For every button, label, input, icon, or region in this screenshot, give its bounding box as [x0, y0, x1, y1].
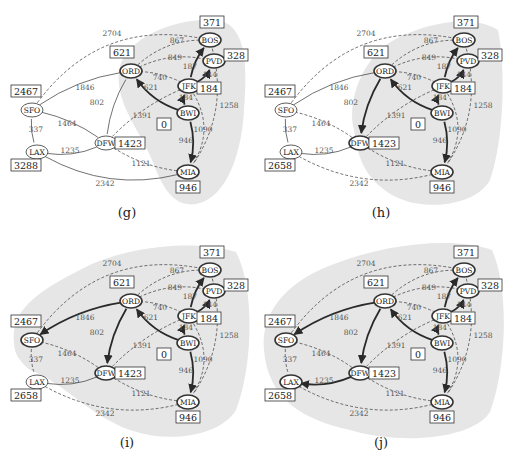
svg-text:LAX: LAX [283, 378, 299, 387]
edge-weight-label: 2704 [356, 29, 375, 38]
node-lax: LAX [26, 145, 48, 159]
svg-text:JFK: JFK [435, 312, 450, 321]
distance-box-jfk: 184 [197, 312, 221, 324]
svg-text:621: 621 [113, 47, 131, 58]
node-bwi: BWI [431, 106, 453, 120]
distance-box-jfk: 184 [197, 82, 221, 94]
distance-box-pvd: 328 [478, 49, 502, 61]
edge-weight-label: 1464 [311, 119, 330, 128]
distance-box-bos: 371 [200, 246, 224, 258]
edge-weight-label: 1235 [60, 376, 79, 385]
distance-box-jfk: 184 [451, 82, 475, 94]
distance-box-ord: 621 [110, 276, 134, 288]
svg-text:PVD: PVD [460, 287, 476, 296]
svg-text:946: 946 [179, 412, 197, 423]
svg-text:DFW: DFW [97, 139, 116, 148]
node-mia: MIA [177, 395, 199, 409]
edge-weight-label: 621 [144, 313, 158, 322]
edge-weight-label: 184 [179, 323, 194, 332]
edge-weight-label: 2704 [102, 29, 121, 38]
edge-weight-label: 1391 [386, 111, 405, 120]
edge-weight-label: 1846 [75, 83, 94, 92]
svg-text:PVD: PVD [206, 287, 222, 296]
graph-g: 2704184633714641235234280213911121867849… [0, 0, 254, 230]
node-bwi: BWI [177, 106, 199, 120]
edge-weight-label: 1258 [473, 101, 492, 110]
edge-weight-label: 2704 [356, 259, 375, 268]
svg-text:ORD: ORD [376, 67, 394, 76]
svg-text:328: 328 [227, 50, 245, 61]
svg-text:SFO: SFO [278, 336, 295, 345]
svg-text:PVD: PVD [460, 57, 476, 66]
svg-text:BWI: BWI [434, 339, 450, 348]
svg-text:SFO: SFO [24, 336, 41, 345]
node-ord: ORD [120, 64, 142, 78]
edge-weight-label: 802 [90, 328, 105, 337]
edge-weight-label: 2342 [349, 409, 368, 418]
edge-weight-label: 2342 [349, 179, 368, 188]
distance-box-bwi: 0 [157, 348, 171, 360]
node-sfo: SFO [21, 103, 43, 117]
svg-text:328: 328 [227, 280, 245, 291]
svg-text:621: 621 [113, 277, 131, 288]
svg-text:2467: 2467 [14, 86, 38, 97]
edge-weight-label: 1391 [386, 341, 405, 350]
distance-box-bwi: 0 [411, 118, 425, 130]
svg-text:MIA: MIA [434, 398, 451, 407]
distance-box-pvd: 328 [478, 279, 502, 291]
svg-text:0: 0 [161, 119, 167, 130]
distance-box-dfw: 1423 [115, 367, 145, 379]
node-bos: BOS [453, 33, 475, 47]
node-pvd: PVD [203, 54, 225, 68]
edge-weight-label: 802 [90, 98, 105, 107]
edge-weight-label: 946 [433, 366, 448, 375]
distance-box-dfw: 1423 [115, 137, 145, 149]
distance-box-lax: 3288 [11, 159, 41, 171]
panel-caption: (i) [0, 435, 254, 450]
edge-weight-label: 740 [407, 303, 422, 312]
svg-text:2658: 2658 [268, 390, 292, 401]
node-bos: BOS [199, 33, 221, 47]
edge-weight-label: 946 [179, 366, 194, 375]
edge-weight-label: 621 [398, 313, 412, 322]
edge-weight-label: 1846 [75, 313, 94, 322]
svg-text:BOS: BOS [202, 266, 219, 275]
edge-weight-label: 2342 [95, 409, 114, 418]
svg-text:0: 0 [161, 349, 167, 360]
node-lax: LAX [280, 145, 302, 159]
svg-text:MIA: MIA [434, 168, 451, 177]
svg-text:DFW: DFW [351, 369, 370, 378]
svg-text:1423: 1423 [372, 368, 396, 379]
distance-box-lax: 2658 [265, 389, 295, 401]
edge-weight-label: 1121 [131, 389, 150, 398]
edge-weight-label: 337 [283, 355, 298, 364]
svg-text:ORD: ORD [122, 297, 140, 306]
panel-i: 2704184633714641235234280213911121867849… [0, 230, 254, 460]
svg-text:2467: 2467 [14, 316, 38, 327]
svg-text:0: 0 [415, 349, 421, 360]
node-sfo: SFO [21, 333, 43, 347]
distance-box-ord: 621 [364, 276, 388, 288]
edge-weight-label: 1846 [329, 313, 348, 322]
distance-box-bos: 371 [454, 16, 478, 28]
graph-j: 2704184633714641235234280213911121867849… [254, 230, 508, 460]
node-mia: MIA [431, 165, 453, 179]
distance-box-ord: 621 [364, 46, 388, 58]
distance-box-pvd: 328 [224, 49, 248, 61]
node-bwi: BWI [177, 336, 199, 350]
distance-box-mia: 946 [430, 411, 454, 423]
svg-text:BOS: BOS [456, 36, 473, 45]
distance-box-bos: 371 [454, 246, 478, 258]
distance-box-bwi: 0 [157, 118, 171, 130]
svg-text:184: 184 [454, 313, 472, 324]
node-ord: ORD [374, 64, 396, 78]
edge-weight-label: 946 [433, 136, 448, 145]
edge-weight-label: 337 [283, 125, 298, 134]
edge-weight-label: 740 [153, 73, 168, 82]
svg-text:BWI: BWI [180, 339, 196, 348]
edge-weight-label: 1464 [57, 119, 76, 128]
svg-text:1423: 1423 [372, 138, 396, 149]
svg-text:2467: 2467 [268, 316, 292, 327]
node-bwi: BWI [431, 336, 453, 350]
distance-box-jfk: 184 [451, 312, 475, 324]
